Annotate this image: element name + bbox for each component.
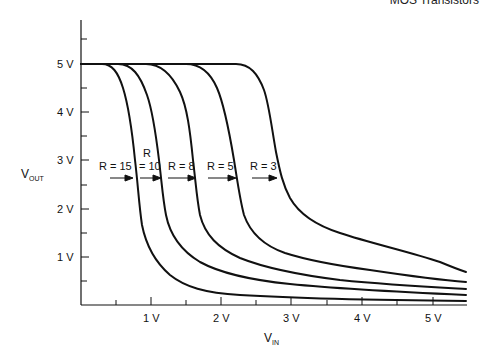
x-tick-label-4v: 4 V	[354, 312, 371, 324]
x-tick-label-1v: 1 V	[143, 312, 160, 324]
x-tick-label-2v: 2 V	[213, 312, 230, 324]
y-ticks	[81, 39, 89, 281]
y-tick-label-5v: 5 V	[57, 58, 74, 70]
x-ticks	[116, 297, 433, 305]
x-tick-label-5v: 5 V	[425, 312, 442, 324]
curve-r5	[81, 64, 466, 282]
label-r3: R = 3	[250, 160, 277, 172]
arrow-r15	[110, 175, 133, 181]
y-axis-title: VOUT	[21, 167, 45, 182]
curve-r15	[81, 64, 466, 301]
arrow-r5	[208, 175, 236, 181]
arrow-r10	[140, 175, 161, 181]
y-tick-label-1v: 1 V	[57, 251, 74, 263]
label-r8: R = 8	[168, 160, 195, 172]
x-axis-title: VIN	[264, 331, 279, 346]
arrow-r3	[252, 175, 277, 181]
label-r10-bottom: = 10	[139, 160, 161, 172]
y-tick-label-3v: 3 V	[57, 154, 74, 166]
transfer-characteristic-chart: 1 V 2 V 3 V 4 V 5 V 1 V 2 V 3 V 4 V 5 V …	[0, 0, 487, 363]
y-tick-label-4v: 4 V	[57, 106, 74, 118]
arrow-r8	[168, 175, 196, 181]
y-tick-label-2v: 2 V	[57, 203, 74, 215]
label-r10-top: R	[143, 147, 151, 159]
label-r5: R = 5	[207, 160, 234, 172]
x-tick-label-3v: 3 V	[283, 312, 300, 324]
label-r15: R = 15	[99, 160, 132, 172]
